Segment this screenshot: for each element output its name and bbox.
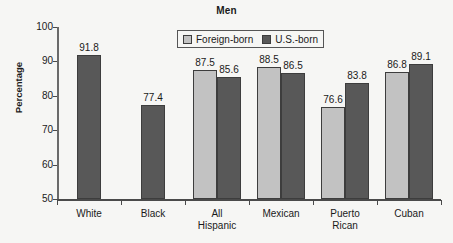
bar-chart: Men Percentage 5060708090100 WhiteBlackA… [0,0,453,243]
bar-us-born [345,83,369,199]
bar-value-label: 91.8 [73,42,105,53]
bar-us-born [217,77,241,199]
y-tick-label: 90 [27,55,53,66]
bar-value-label: 89.1 [405,51,437,62]
bar-us-born [141,105,165,199]
x-axis-group-label: AllHispanic [185,208,249,231]
bar-value-label: 85.6 [213,64,245,75]
y-tick-label: 60 [27,159,53,170]
x-tick-mark [313,200,314,205]
x-axis-group-label: Cuban [377,208,441,220]
bar-value-label: 86.5 [277,60,309,71]
bar-value-label: 77.4 [137,92,169,103]
y-tick-mark [53,165,57,166]
y-tick-mark [53,61,57,62]
x-tick-mark [121,200,122,205]
bar-foreign-born [385,72,409,199]
x-axis-group-label: White [57,208,121,220]
bar-us-born [409,64,433,199]
y-tick-label: 70 [27,124,53,135]
bar-us-born [77,55,101,199]
bar-foreign-born [321,107,345,199]
legend-item-us-born: U.S.-born [262,34,318,45]
y-tick-label: 80 [27,90,53,101]
x-tick-mark [377,200,378,205]
legend-swatch-icon [183,35,192,44]
legend-swatch-icon [262,35,271,44]
x-tick-mark [185,200,186,205]
y-tick-mark [53,130,57,131]
y-axis-line [57,27,59,199]
x-tick-mark [441,200,442,205]
x-axis-group-label: Black [121,208,185,220]
x-tick-mark [57,200,58,205]
x-tick-mark [249,200,250,205]
bar-us-born [281,73,305,199]
legend-label: Foreign-born [196,34,253,45]
bar-value-label: 83.8 [341,70,373,81]
chart-legend: Foreign-born U.S.-born [177,30,324,48]
bar-foreign-born [193,70,217,199]
x-axis-group-label: PuertoRican [313,208,377,231]
y-tick-mark [53,96,57,97]
legend-item-foreign-born: Foreign-born [183,34,253,45]
chart-title: Men [0,5,453,16]
y-tick-label: 100 [27,21,53,32]
x-axis-group-label: Mexican [249,208,313,220]
y-axis-title: Percentage [13,53,24,123]
bar-foreign-born [257,67,281,199]
legend-label: U.S.-born [275,34,318,45]
y-tick-mark [53,27,57,28]
y-tick-label: 50 [27,193,53,204]
